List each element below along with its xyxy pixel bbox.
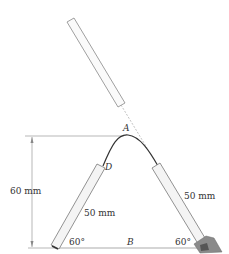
left-angle-label: 60° <box>69 237 85 247</box>
right-angle-label: 60° <box>175 237 191 247</box>
point-a-label: A <box>122 123 130 133</box>
point-d-label: D <box>104 162 112 172</box>
upper-tube <box>67 18 125 107</box>
diagram-canvas: A D B 60 mm 50 mm 50 mm 60° 60° <box>0 0 229 254</box>
right-tube-length-label: 50 mm <box>184 191 216 201</box>
height-dimension-label: 60 mm <box>10 186 42 196</box>
left-tube-length-label: 50 mm <box>84 208 116 218</box>
point-b-label: B <box>126 237 134 247</box>
right-tube <box>152 163 208 247</box>
